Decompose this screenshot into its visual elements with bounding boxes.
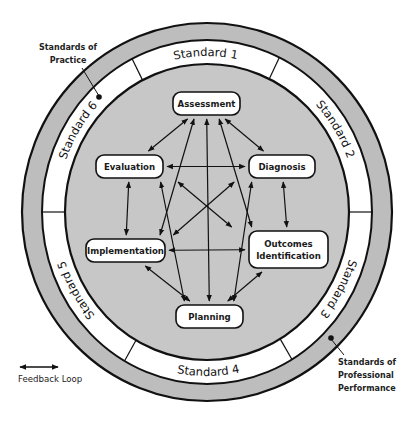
callout-dot-icon [328,335,334,341]
node-diagnosis: Diagnosis [249,155,315,178]
node-assessment: Assessment [173,92,240,115]
callout-practice-line-1: Standards of [39,43,98,52]
node-label: Planning [188,312,231,322]
diagram-canvas: Standard 1Standard 2Standard 3Standard 4… [0,0,411,423]
legend-label: Feedback Loop [18,374,82,384]
node-evaluation: Evaluation [96,155,163,178]
callout-practice-line-2: Practice [50,56,87,65]
node-label: Assessment [178,99,236,109]
standards-rings [22,23,392,401]
node-implementation: Implementation [86,239,165,262]
node-label: Implementation [87,246,164,256]
callout-dot-icon [96,94,102,100]
nursing-process-diagram: Standard 1Standard 2Standard 3Standard 4… [0,0,411,423]
callout-professional-line-2: Professional [338,371,394,380]
node-label: Identification [256,251,321,261]
callout-professional-line-1: Standards of [338,358,397,367]
node-label: Diagnosis [258,162,305,172]
callout-professional-line-3: Performance [338,384,396,393]
node-label: Evaluation [104,162,155,172]
legend: Feedback Loop [18,367,82,384]
node-label: Outcomes [264,239,312,249]
node-box [249,231,328,268]
node-outcomes-identification: OutcomesIdentification [249,231,328,268]
node-planning: Planning [176,305,243,328]
